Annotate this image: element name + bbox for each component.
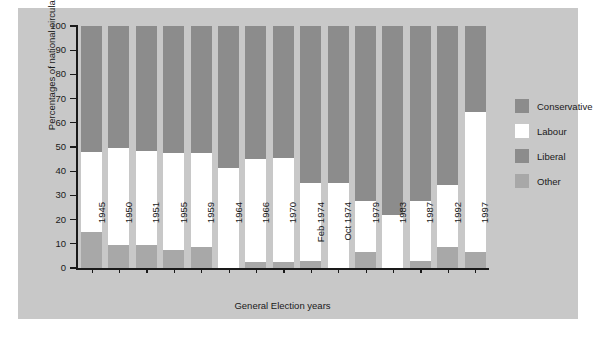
bar-segment-conservative[interactable]	[410, 26, 431, 201]
bar-segment-conservative[interactable]	[382, 26, 403, 215]
y-tick-mark	[70, 195, 76, 196]
x-tick-label: 1979	[370, 202, 381, 272]
y-tick-label-text: 40	[38, 166, 66, 176]
y-tick-mark	[70, 267, 76, 268]
y-tick-mark	[70, 74, 76, 75]
legend-swatch-other	[515, 174, 529, 188]
y-tick-label: 20	[38, 215, 66, 225]
x-tick-mark	[256, 269, 257, 273]
x-tick-label: 1964	[233, 202, 244, 272]
y-tick-label-text: 60	[38, 118, 66, 128]
x-tick-mark	[119, 269, 120, 273]
y-tick-label: 10	[38, 239, 66, 249]
bar-segment-conservative[interactable]	[437, 26, 458, 185]
x-tick-label: 1987	[424, 202, 435, 272]
chart-legend: ConservativeLabourLiberalOther	[515, 98, 585, 198]
y-tick-label: 0	[38, 263, 66, 273]
y-tick-label-text: 70	[38, 94, 66, 104]
bar-segment-conservative[interactable]	[300, 26, 321, 183]
x-tick-mark	[475, 269, 476, 273]
y-tick-mark	[70, 122, 76, 123]
y-tick-mark	[70, 219, 76, 220]
bar-segment-conservative[interactable]	[108, 26, 129, 148]
legend-label: Liberal	[537, 151, 566, 162]
x-tick-label: 1983	[397, 202, 408, 272]
x-tick-label: 1992	[452, 202, 463, 272]
y-tick-label-text: 90	[38, 45, 66, 55]
legend-swatch-conservative	[515, 99, 529, 113]
x-tick-label: 1966	[260, 202, 271, 272]
bar-segment-conservative[interactable]	[328, 26, 349, 183]
x-tick-label: 1959	[205, 202, 216, 272]
legend-item[interactable]: Conservative	[515, 98, 585, 123]
bar-segment-conservative[interactable]	[163, 26, 184, 153]
y-tick-mark	[70, 25, 76, 26]
y-tick-label: 80	[38, 69, 66, 79]
legend-label: Other	[537, 176, 561, 187]
x-axis-title: General Election years	[77, 300, 488, 311]
x-tick-label: 1970	[287, 202, 298, 272]
bar-segment-conservative[interactable]	[465, 26, 486, 112]
x-tick-mark	[201, 269, 202, 273]
legend-swatch-liberal	[515, 149, 529, 163]
bar-segment-conservative[interactable]	[191, 26, 212, 153]
legend-item[interactable]: Liberal	[515, 148, 585, 173]
x-tick-mark	[92, 269, 93, 273]
x-tick-mark	[311, 269, 312, 273]
x-tick-mark	[283, 269, 284, 273]
bar-segment-conservative[interactable]	[245, 26, 266, 159]
x-tick-label: Oct 1974	[342, 202, 353, 272]
x-tick-mark	[420, 269, 421, 273]
y-tick-label: 70	[38, 94, 66, 104]
y-tick-label: 60	[38, 118, 66, 128]
y-tick-label: 40	[38, 166, 66, 176]
y-tick-mark	[70, 50, 76, 51]
y-tick-mark	[70, 171, 76, 172]
x-tick-mark	[448, 269, 449, 273]
bar-segment-conservative[interactable]	[136, 26, 157, 151]
x-tick-mark	[146, 269, 147, 273]
x-tick-mark	[366, 269, 367, 273]
x-tick-label: 1997	[479, 202, 490, 272]
x-tick-mark	[174, 269, 175, 273]
y-tick-label-text: 50	[38, 142, 66, 152]
y-tick-label-text: 80	[38, 69, 66, 79]
y-tick-label-text: 100	[38, 21, 66, 31]
bar-segment-conservative[interactable]	[81, 26, 102, 152]
legend-item[interactable]: Labour	[515, 123, 585, 148]
x-tick-label: 1945	[96, 202, 107, 272]
y-tick-label: 100	[38, 21, 66, 31]
legend-item[interactable]: Other	[515, 173, 585, 198]
legend-label: Labour	[537, 126, 567, 137]
legend-swatch-labour	[515, 124, 529, 138]
y-tick-mark	[70, 98, 76, 99]
legend-label: Conservative	[537, 101, 592, 112]
x-tick-mark	[338, 269, 339, 273]
y-tick-mark	[70, 146, 76, 147]
y-tick-label: 90	[38, 45, 66, 55]
x-tick-label: 1955	[178, 202, 189, 272]
x-tick-mark	[229, 269, 230, 273]
x-tick-label: Feb 1974	[315, 202, 326, 272]
y-tick-label-text: 0	[38, 263, 66, 273]
y-tick-label: 50	[38, 142, 66, 152]
bar-segment-conservative[interactable]	[218, 26, 239, 168]
y-tick-label-text: 10	[38, 239, 66, 249]
y-tick-mark	[70, 243, 76, 244]
bar-segment-conservative[interactable]	[355, 26, 376, 201]
y-tick-label-text: 20	[38, 215, 66, 225]
x-tick-label: 1951	[150, 202, 161, 272]
chart-figure: Percentages of national circulation 0102…	[0, 0, 596, 337]
y-tick-label-text: 30	[38, 190, 66, 200]
x-tick-label: 1950	[123, 202, 134, 272]
x-tick-mark	[393, 269, 394, 273]
bar-segment-conservative[interactable]	[273, 26, 294, 158]
y-tick-label: 30	[38, 190, 66, 200]
